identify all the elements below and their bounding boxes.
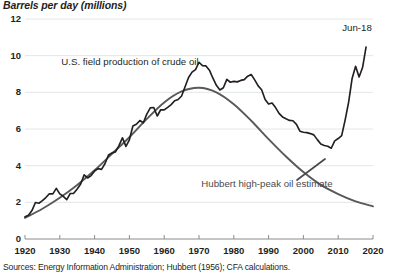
x-axis-tick-label: 2000 (293, 246, 314, 256)
x-axis-tick-label: 1970 (188, 246, 209, 256)
y-axis-title: Barrels per day (millions) (3, 0, 126, 11)
chart-figure: Barrels per day (millions) 024681012 192… (0, 0, 395, 274)
x-axis-tick-label: 1930 (49, 246, 70, 256)
x-axis-tick-label: 1920 (14, 246, 35, 256)
x-axis-tick-label: 1990 (258, 246, 279, 256)
y-axis-tick-label: 4 (3, 161, 21, 171)
y-axis-tick-label: 2 (3, 197, 21, 207)
y-axis-tick-label: 8 (3, 87, 21, 97)
chart-svg (25, 19, 373, 239)
y-axis-tick-label: 0 (3, 234, 21, 244)
end-point-label: Jun-18 (330, 22, 384, 33)
x-axis-tick-label: 2020 (362, 246, 383, 256)
y-axis-tick-labels: 024681012 (0, 0, 21, 274)
y-axis-tick-label: 10 (3, 51, 21, 61)
y-axis-tick-label: 6 (3, 124, 21, 134)
x-axis-tick-label: 1980 (223, 246, 244, 256)
plot-area (25, 19, 373, 239)
gridlines (25, 19, 373, 202)
series-annotation-production: U.S. field production of crude oil (56, 56, 204, 67)
us-crude-production-line (25, 47, 366, 217)
x-axis-tick-label: 2010 (328, 246, 349, 256)
y-axis-tick-label: 12 (3, 14, 21, 24)
x-axis-tick-label: 1940 (84, 246, 105, 256)
source-note: Sources: Energy Information Administrati… (3, 262, 290, 272)
series-annotation-hubbert: Hubbert high-peak oil estimate (192, 178, 342, 189)
x-axis-tick-label: 1960 (154, 246, 175, 256)
x-axis-tick-labels: 1920193019401950196019701980199020002010… (0, 246, 395, 260)
x-axis-tick-label: 1950 (119, 246, 140, 256)
hubbert-estimate-line (25, 88, 373, 218)
x-axis (25, 235, 373, 239)
